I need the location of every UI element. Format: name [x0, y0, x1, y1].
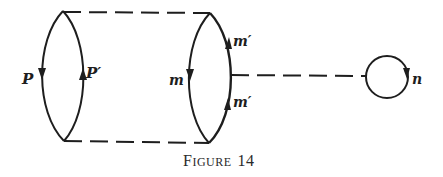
diagram-canvas: P P′ m m′ m′ n FIGURE14 — [0, 0, 443, 177]
middle-loop-left-arc — [189, 13, 210, 143]
label-m-prime-bottom: m′ — [233, 94, 252, 110]
arrow-down-icon — [186, 69, 194, 81]
caption-initial: F — [183, 152, 192, 169]
small-loop-n — [366, 56, 408, 98]
bottom-dashed-line — [64, 141, 209, 143]
caption-number: 14 — [238, 152, 255, 169]
feynman-diagram-figure: P P′ m m′ m′ n FIGURE14 — [0, 0, 443, 177]
left-loop-left-arc — [42, 11, 64, 141]
left-loop-right-arc — [63, 11, 83, 141]
connecting-dashed-line — [231, 75, 366, 76]
label-P: P — [21, 70, 34, 88]
arrow-down-icon — [38, 68, 46, 80]
caption-smallcaps: IGURE — [192, 155, 231, 169]
label-P-prime: P′ — [85, 64, 101, 82]
figure-caption: FIGURE14 — [183, 152, 255, 169]
label-m-prime-top: m′ — [233, 33, 252, 49]
label-m: m — [169, 72, 184, 88]
middle-loop-right-arc — [209, 13, 231, 143]
label-n: n — [412, 71, 422, 87]
top-dashed-line — [63, 12, 210, 13]
